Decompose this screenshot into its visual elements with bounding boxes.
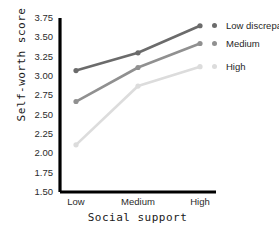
data-point[interactable] [197,23,202,28]
data-point[interactable] [197,41,202,46]
data-point[interactable] [197,64,202,69]
data-point[interactable] [73,99,78,104]
legend-entry-high[interactable]: High [212,61,246,72]
axis-spine [60,18,216,192]
series-layer [73,23,202,147]
legend-marker-icon [212,64,217,69]
data-point[interactable] [135,65,140,70]
chart-figure: Self-worth score Social support 3.75 3.5… [0,0,279,232]
legend-label: High [226,61,246,72]
plot-area [0,0,279,232]
data-point[interactable] [135,50,140,55]
data-point[interactable] [73,142,78,147]
legend-marker-icon [212,23,217,28]
data-point[interactable] [73,68,78,73]
series-high [73,64,202,147]
series-line [76,26,200,71]
legend-label: Low discrepancy [226,20,279,31]
series-line [76,67,200,145]
legend-entry-low-discrepancy[interactable]: Low discrepancy [212,20,279,31]
legend-entry-medium[interactable]: Medium [212,38,260,49]
legend-label: Medium [226,38,260,49]
legend-marker-icon [212,41,217,46]
data-point[interactable] [135,83,140,88]
